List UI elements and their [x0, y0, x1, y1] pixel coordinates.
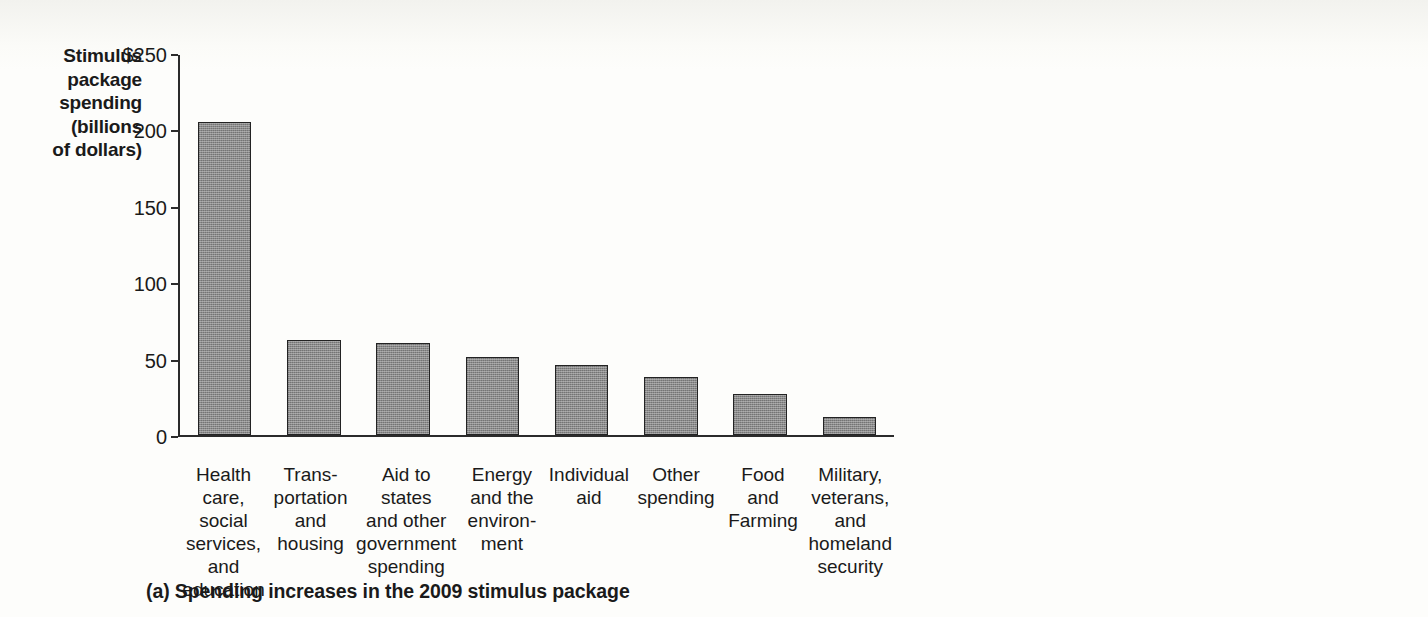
bar [376, 343, 430, 435]
y-tick-label: 150 [134, 198, 167, 218]
category-label: Food and Farming [720, 463, 807, 601]
x-axis-line-a [178, 435, 894, 437]
y-tick-mark [171, 54, 178, 56]
y-tick-label: 200 [134, 121, 167, 141]
bar-group-a [180, 55, 894, 435]
bar [466, 357, 520, 435]
bar-slot [180, 55, 269, 435]
bar-slot [626, 55, 715, 435]
y-tick-mark [171, 436, 178, 438]
plot-area-a: 050100150200$250 [178, 55, 894, 437]
bar-slot [537, 55, 626, 435]
category-label: Other spending [632, 463, 719, 601]
bar-slot [269, 55, 358, 435]
bar [823, 417, 877, 435]
y-tick-label: $250 [123, 45, 168, 65]
y-tick-mark [171, 130, 178, 132]
bar [555, 365, 609, 435]
panel-caption-a: (a) Spending increases in the 2009 stimu… [146, 580, 630, 603]
y-tick-label: 50 [145, 351, 167, 371]
bar-slot [448, 55, 537, 435]
bar [287, 340, 341, 435]
y-tick-label: 100 [134, 274, 167, 294]
figure-container: Stimulus package spending (billions of d… [0, 0, 1428, 617]
bar [644, 377, 698, 435]
bar-slot [359, 55, 448, 435]
y-tick-mark [171, 207, 178, 209]
y-tick-label: 0 [156, 427, 167, 447]
bar-slot [716, 55, 805, 435]
y-tick-mark [171, 360, 178, 362]
chart-panel-a: Stimulus package spending (billions of d… [0, 0, 900, 617]
y-tick-mark [171, 283, 178, 285]
bar [733, 394, 787, 435]
bar [198, 122, 252, 435]
category-label: Military, veterans, and homeland securit… [807, 463, 894, 601]
bar-slot [805, 55, 894, 435]
chart-panel-b: Tax Cuts (billions of dollars) 050100150… [900, 0, 1428, 617]
